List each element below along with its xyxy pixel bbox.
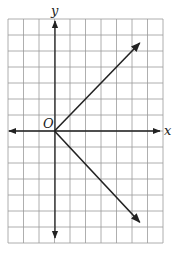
x-axis-label: x [164,123,172,138]
ray-upper-ray [55,43,140,131]
ray-lower-ray [55,131,140,222]
y-axis-label: y [50,3,59,18]
axes [9,21,160,238]
coordinate-plane: x y O [0,0,173,256]
origin-label: O [43,116,54,131]
